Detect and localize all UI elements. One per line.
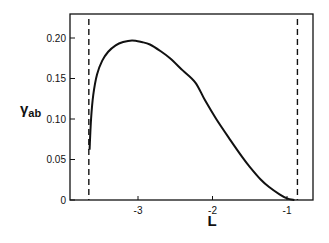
y-tick-label: 0.05 bbox=[47, 154, 67, 165]
x-tick-label: -3 bbox=[134, 205, 143, 216]
x-axis-label: L bbox=[207, 212, 216, 229]
y-axis-label-sub: ab bbox=[28, 107, 41, 119]
y-tick-label: 0.15 bbox=[47, 73, 67, 84]
y-axis-label: γab bbox=[20, 100, 41, 119]
y-tick-label: 0 bbox=[60, 195, 66, 206]
y-axis: 00.050.100.150.20 bbox=[47, 33, 75, 206]
x-tick-label: -1 bbox=[283, 205, 292, 216]
y-tick-label: 0.10 bbox=[47, 114, 67, 125]
reference-lines bbox=[89, 19, 298, 200]
series-line-gamma-ab bbox=[90, 40, 295, 200]
chart: -3-2-1 00.050.100.150.20 L γab bbox=[0, 0, 329, 243]
plot-frame bbox=[70, 14, 313, 200]
y-tick-label: 0.20 bbox=[47, 33, 67, 44]
